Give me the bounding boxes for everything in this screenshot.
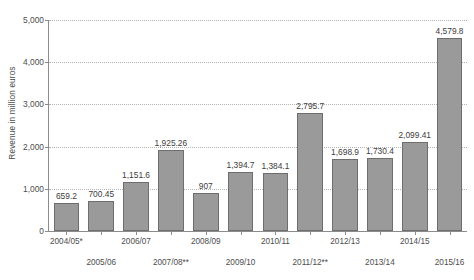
bar-value-label: 1,925.26 [155, 138, 188, 148]
bars-layer: 659.2700.451,151.61,925.269071,394.71,38… [49, 20, 467, 231]
x-axis-label: 2004/05* [50, 237, 83, 246]
y-tick-label: 1,000 [23, 184, 44, 194]
y-tick-label: 5,000 [23, 15, 44, 25]
bar-group: 2,795.7 [297, 20, 323, 231]
bar-value-label: 1,394.7 [227, 160, 255, 170]
bar-group: 2,099.41 [402, 20, 428, 231]
bar[interactable] [367, 158, 393, 231]
x-tick-mark [136, 231, 137, 235]
bar-value-label: 4,579.8 [436, 26, 464, 36]
bar-value-label: 2,099.41 [398, 130, 431, 140]
bar-group: 1,394.7 [228, 20, 254, 231]
bar[interactable] [193, 193, 219, 231]
x-axis-label: 2015/16 [435, 258, 465, 267]
plot-area: 01,0002,0003,0004,0005,000 659.2700.451,… [49, 20, 467, 231]
x-tick-mark [275, 231, 276, 235]
x-tick-mark [101, 231, 102, 235]
bar-value-label: 659.2 [56, 191, 77, 201]
x-axis-label: 2005/06 [86, 258, 116, 267]
bar[interactable] [437, 38, 463, 231]
bar-value-label: 1,384.1 [261, 161, 289, 171]
bar[interactable] [228, 172, 254, 231]
x-tick-mark [310, 231, 311, 235]
bar-value-label: 1,151.6 [122, 170, 150, 180]
x-axis-label: 2008/09 [191, 237, 221, 246]
bar-group: 4,579.8 [437, 20, 463, 231]
x-axis-label: 2014/15 [400, 237, 430, 246]
bar-group: 907 [193, 20, 219, 231]
x-axis-label: 2013/14 [365, 258, 395, 267]
x-tick-mark [345, 231, 346, 235]
y-tick-label: 0 [39, 226, 44, 236]
x-axis-label: 2012/13 [330, 237, 360, 246]
x-axis-label: 2009/10 [226, 258, 256, 267]
bar-group: 1,730.4 [367, 20, 393, 231]
bar-value-label: 907 [199, 181, 213, 191]
bar-group: 1,151.6 [123, 20, 149, 231]
x-tick-mark [241, 231, 242, 235]
x-tick-mark [206, 231, 207, 235]
bar-chart: Revenue in million euros 01,0002,0003,00… [0, 0, 474, 280]
x-axis-label: 2007/08** [153, 258, 189, 267]
x-tick-mark [380, 231, 381, 235]
bar[interactable] [123, 182, 149, 231]
bar[interactable] [402, 142, 428, 231]
x-axis-label: 2006/07 [121, 237, 151, 246]
y-tick-label: 4,000 [23, 57, 44, 67]
bar-group: 1,384.1 [263, 20, 289, 231]
bar-group: 1,925.26 [158, 20, 184, 231]
bar-value-label: 2,795.7 [296, 101, 324, 111]
y-tick-label: 3,000 [23, 99, 44, 109]
x-axis-label: 2010/11 [261, 237, 290, 246]
bar-group: 1,698.9 [332, 20, 358, 231]
bar[interactable] [88, 201, 114, 231]
bar-group: 700.45 [88, 20, 114, 231]
bar-value-label: 700.45 [88, 189, 114, 199]
x-tick-mark [450, 231, 451, 235]
bar[interactable] [332, 159, 358, 231]
x-tick-mark [415, 231, 416, 235]
y-tick-label: 2,000 [23, 142, 44, 152]
x-tick-mark [66, 231, 67, 235]
y-axis-title: Revenue in million euros [6, 0, 20, 228]
x-axis-labels: 2004/05*2005/062006/072007/08**2008/0920… [49, 231, 467, 275]
bar-value-label: 1,698.9 [331, 147, 359, 157]
x-axis-label: 2011/12** [293, 258, 328, 267]
bar[interactable] [54, 203, 80, 231]
bar[interactable] [263, 173, 289, 231]
bar[interactable] [158, 150, 184, 231]
x-tick-mark [171, 231, 172, 235]
bar-value-label: 1,730.4 [366, 146, 394, 156]
bar[interactable] [297, 113, 323, 231]
bar-group: 659.2 [54, 20, 80, 231]
